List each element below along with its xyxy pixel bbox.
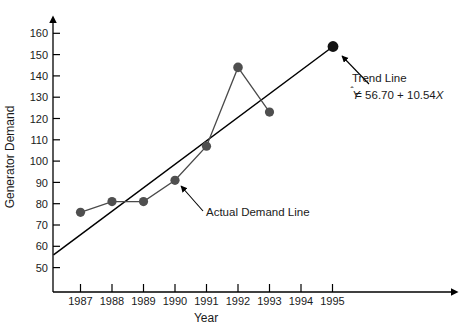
y-tick-label: 120 bbox=[30, 113, 48, 125]
data-points bbox=[76, 41, 339, 217]
actual-demand-leader-line bbox=[181, 186, 203, 211]
actual-demand-annotation-label: Actual Demand Line bbox=[206, 206, 310, 218]
x-axis-ticks bbox=[81, 284, 333, 292]
trend-line-annotation-label: Trend Line bbox=[352, 72, 407, 84]
y-axis-ticks bbox=[53, 33, 60, 267]
data-point-1989 bbox=[139, 197, 148, 206]
data-point-1987 bbox=[76, 208, 85, 217]
equation-body: = 56.70 + 10.54 bbox=[352, 89, 436, 101]
x-tick-label: 1989 bbox=[131, 295, 155, 307]
y-tick-label: 70 bbox=[36, 219, 48, 231]
x-axis-title: Year bbox=[194, 311, 218, 325]
x-tick-label: 1994 bbox=[289, 295, 313, 307]
chart-container: 50 60 70 80 90 100 110 120 130 140 150 1… bbox=[0, 0, 472, 335]
x-tick-label: 1988 bbox=[100, 295, 124, 307]
x-tick-label: 1987 bbox=[68, 295, 92, 307]
x-tick-label: 1990 bbox=[163, 295, 187, 307]
data-point-1991 bbox=[202, 142, 211, 151]
data-point-1995 bbox=[328, 41, 339, 52]
actual-demand-line bbox=[81, 67, 270, 212]
y-axis-title: Generator Demand bbox=[3, 106, 17, 209]
svg-text:Ŷ = 56.70 + 10.54X: Ŷ = 56.70 + 10.54X bbox=[350, 86, 445, 101]
y-tick-label: 90 bbox=[36, 177, 48, 189]
y-tick-label: 60 bbox=[36, 240, 48, 252]
y-tick-label: 150 bbox=[30, 49, 48, 61]
trend-line bbox=[54, 47, 334, 255]
chart-plot-area: 50 60 70 80 90 100 110 120 130 140 150 1… bbox=[0, 0, 472, 335]
trend-line-equation: Ŷ = 56.70 + 10.54X bbox=[350, 86, 445, 101]
y-tick-label: 80 bbox=[36, 198, 48, 210]
data-point-1993 bbox=[265, 108, 274, 117]
x-tick-label: 1995 bbox=[320, 295, 344, 307]
data-point-1990 bbox=[170, 176, 179, 185]
y-tick-label: 100 bbox=[30, 155, 48, 167]
x-axis-tick-labels: 1987 1988 1989 1990 1991 1992 1993 1994 … bbox=[68, 295, 344, 307]
y-tick-label: 140 bbox=[30, 70, 48, 82]
y-tick-label: 110 bbox=[30, 134, 48, 146]
x-tick-label: 1993 bbox=[257, 295, 281, 307]
data-point-1992 bbox=[233, 63, 243, 73]
data-point-1988 bbox=[107, 197, 116, 206]
x-tick-label: 1992 bbox=[226, 295, 250, 307]
y-tick-label: 160 bbox=[30, 27, 48, 39]
y-axis-tick-labels: 50 60 70 80 90 100 110 120 130 140 150 1… bbox=[30, 27, 48, 273]
equation-hat-symbol: ̂ bbox=[350, 86, 354, 88]
y-tick-label: 130 bbox=[30, 91, 48, 103]
y-tick-label: 50 bbox=[36, 262, 48, 274]
equation-x-symbol: X bbox=[435, 89, 445, 101]
x-tick-label: 1991 bbox=[194, 295, 218, 307]
